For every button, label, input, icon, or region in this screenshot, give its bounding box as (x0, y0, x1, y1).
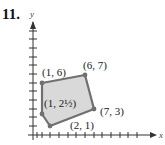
x-axis (28, 132, 155, 138)
vertex-1-2half (40, 112, 45, 117)
x-axis-arrow-icon (150, 132, 157, 138)
label-1-2half: (1, 2½) (44, 97, 76, 110)
label-7-3: (7, 3) (100, 105, 124, 118)
vertex-6-7 (83, 73, 88, 78)
y-axis-arrow-icon (30, 21, 36, 29)
label-2-1: (2, 1) (70, 119, 94, 132)
x-axis-label: x (158, 130, 163, 140)
vertex-7-3 (92, 107, 97, 112)
vertex-2-1 (48, 124, 53, 129)
vertex-1-6 (40, 81, 45, 86)
y-axis-label: y (29, 9, 34, 19)
y-axis (29, 22, 37, 140)
label-1-6: (1, 6) (42, 66, 66, 79)
label-6-7: (6, 7) (83, 59, 107, 72)
coordinate-plane: x y (1, 6) (6, 7) (7, 3) (2, 1) (1, 2½) (0, 0, 165, 145)
